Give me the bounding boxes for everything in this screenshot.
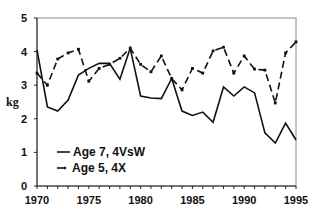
data-point-marker — [295, 40, 298, 43]
data-point-marker — [108, 63, 111, 66]
data-point-marker — [46, 84, 49, 87]
y-axis: 012345 — [21, 12, 37, 192]
x-tick-label: 1975 — [77, 194, 101, 206]
data-point-marker — [150, 70, 153, 73]
x-tick-label: 1995 — [284, 194, 308, 206]
data-point-marker — [56, 58, 59, 61]
data-point-marker — [274, 102, 277, 105]
data-point-marker — [129, 47, 132, 50]
legend-item-age5: Age 5, 4X — [57, 161, 126, 175]
data-point-marker — [160, 55, 163, 58]
data-point-marker — [212, 50, 215, 53]
data-point-marker — [77, 48, 80, 51]
data-point-marker — [253, 68, 256, 71]
line-chart: 012345 197019751980198519901995 kg Age 7… — [0, 0, 312, 213]
legend-item-age7: Age 7, 4VsW — [57, 145, 146, 159]
data-point-marker — [222, 46, 225, 49]
x-tick-label: 1990 — [232, 194, 256, 206]
x-tick-label: 1985 — [180, 194, 204, 206]
x-tick-label: 1970 — [25, 194, 49, 206]
data-point-marker — [201, 72, 204, 75]
data-point-marker — [284, 52, 287, 55]
data-point-marker — [264, 69, 267, 72]
y-axis-title: kg — [6, 95, 19, 109]
data-point-marker — [87, 80, 90, 83]
data-point-marker — [36, 72, 39, 75]
data-point-marker — [181, 89, 184, 92]
legend: Age 7, 4VsW Age 5, 4X — [57, 145, 146, 175]
data-point-marker — [98, 67, 101, 70]
series-age5-line — [37, 42, 296, 103]
legend-label: Age 7, 4VsW — [73, 145, 146, 159]
y-tick-label: 4 — [21, 46, 28, 58]
y-tick-label: 5 — [21, 12, 27, 24]
data-point-marker — [118, 57, 121, 60]
x-tick-label: 1980 — [128, 194, 152, 206]
marker-swatch-icon — [64, 167, 67, 170]
y-tick-label: 3 — [21, 79, 27, 91]
data-point-marker — [232, 72, 235, 75]
series-age7-line — [37, 48, 296, 143]
y-tick-label: 0 — [21, 180, 27, 192]
y-tick-label: 1 — [21, 146, 27, 158]
y-tick-label: 2 — [21, 113, 27, 125]
data-point-marker — [139, 63, 142, 66]
data-point-marker — [67, 52, 70, 55]
x-axis: 197019751980198519901995 — [25, 186, 308, 206]
legend-label: Age 5, 4X — [72, 161, 126, 175]
data-point-marker — [170, 77, 173, 80]
data-point-marker — [243, 55, 246, 58]
series-layer — [36, 40, 298, 143]
data-point-marker — [191, 67, 194, 70]
